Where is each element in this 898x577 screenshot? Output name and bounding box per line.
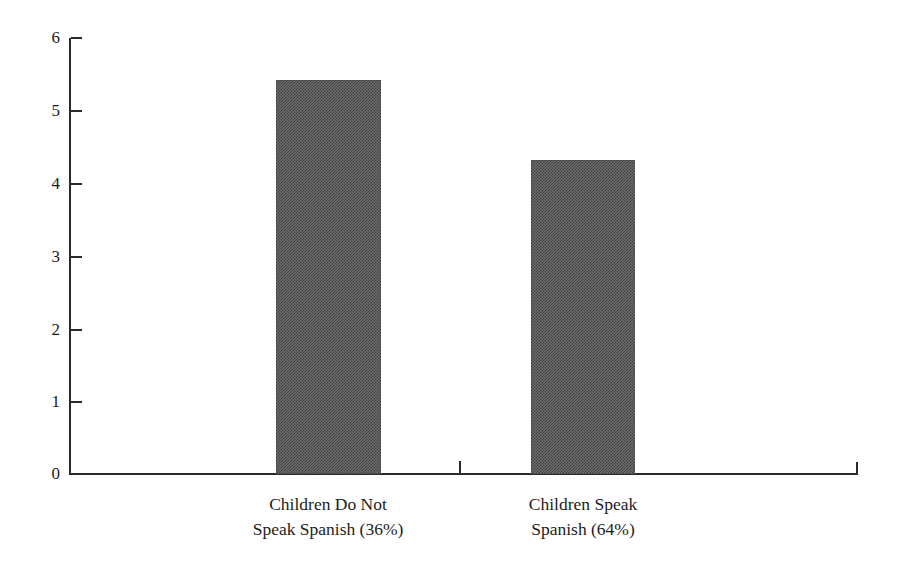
y-axis-tick-mark-6 bbox=[71, 37, 82, 39]
x-axis-end-tick bbox=[856, 462, 858, 474]
y-axis-tick-label-5: 5 bbox=[34, 102, 60, 119]
bar-children-do-not-speak-spanish bbox=[276, 80, 381, 474]
x-axis-category-label-1: Children Speak Spanish (64%) bbox=[483, 492, 683, 542]
bar-children-speak-spanish bbox=[531, 160, 635, 474]
category-separator-tick bbox=[459, 461, 461, 474]
y-axis-tick-label-2: 2 bbox=[34, 321, 60, 338]
x-axis-category-label-0: Children Do Not Speak Spanish (36%) bbox=[228, 492, 428, 542]
y-axis-tick-mark-2 bbox=[71, 329, 82, 331]
bar-chart: 6 5 4 3 2 1 0 Children Do Not Speak Span… bbox=[0, 0, 898, 577]
x-axis-category-label-0-line2: Speak Spanish (36%) bbox=[228, 517, 428, 542]
x-axis-category-label-0-line1: Children Do Not bbox=[228, 492, 428, 517]
x-axis-line bbox=[69, 473, 858, 475]
x-axis-category-label-1-line2: Spanish (64%) bbox=[483, 517, 683, 542]
y-axis-tick-mark-5 bbox=[71, 110, 82, 112]
x-axis-category-label-1-line1: Children Speak bbox=[483, 492, 683, 517]
y-axis-tick-mark-4 bbox=[71, 183, 82, 185]
y-axis-tick-label-1: 1 bbox=[34, 393, 60, 410]
y-axis-tick-label-4: 4 bbox=[34, 175, 60, 192]
y-axis-tick-mark-3 bbox=[71, 256, 82, 258]
y-axis-tick-label-3: 3 bbox=[34, 248, 60, 265]
y-axis-tick-mark-1 bbox=[71, 401, 82, 403]
scan-noise-overlay bbox=[0, 0, 898, 577]
y-axis-tick-label-0: 0 bbox=[34, 465, 60, 482]
y-axis-tick-label-6: 6 bbox=[34, 29, 60, 46]
